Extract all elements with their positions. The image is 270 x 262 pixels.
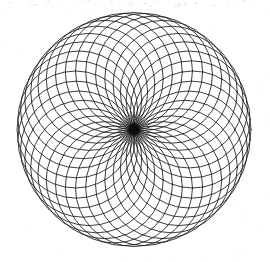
- center-hub: [127, 122, 142, 137]
- rose-of-circles-figure: Rose of circles Symmetric rosette formed…: [0, 0, 270, 262]
- hub-core: [130, 126, 138, 134]
